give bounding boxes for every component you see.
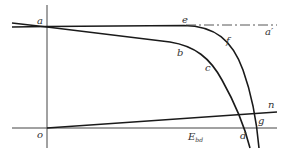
label-g: g xyxy=(258,115,264,126)
diagram-canvas: a e a′ f b c n g d o Ebd xyxy=(0,0,288,155)
curve-a-e-f-g xyxy=(12,26,259,149)
label-f: f xyxy=(225,35,232,46)
label-o: o xyxy=(37,129,43,140)
label-b: b xyxy=(177,47,183,58)
label-n: n xyxy=(268,99,274,110)
curve-a-b-c-d xyxy=(12,23,250,148)
label-E-sub: bd xyxy=(195,136,203,143)
label-c: c xyxy=(205,62,211,73)
label-a-prime: a′ xyxy=(265,26,274,37)
label-a: a xyxy=(37,15,43,26)
label-e: e xyxy=(182,14,188,25)
label-d: d xyxy=(240,130,246,141)
label-E-bd: Ebd xyxy=(187,131,203,143)
